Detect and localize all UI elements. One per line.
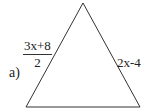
left-side-numerator: 3x+8	[23, 39, 52, 52]
left-side-denominator: 2	[23, 56, 52, 69]
left-side-label: 3x+8 2	[23, 39, 52, 69]
problem-label: a)	[9, 66, 20, 80]
right-side-label: 2x-4	[117, 56, 141, 69]
